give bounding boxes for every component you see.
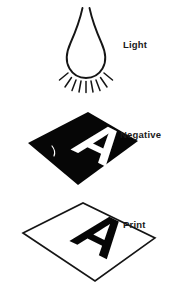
light-ray [91,81,93,92]
light-ray [104,73,113,80]
negative-label: Negative [120,129,161,140]
light-ray [101,78,108,88]
light-ray [96,80,100,91]
light-ray [72,80,76,91]
light-stage-group: Light [60,8,148,93]
light-label: Light [123,39,148,50]
print-stage-group: A Print [23,199,155,281]
light-bulb-icon [67,8,105,78]
photographic-process-diagram: Light A Negative A Print [0,0,170,282]
negative-stage-group: A Negative [28,111,161,185]
light-ray [65,78,72,88]
light-ray [79,81,81,92]
light-ray [60,73,69,80]
diagram-canvas: Light A Negative A Print [0,0,170,282]
print-label: Print [123,219,146,230]
bulb-outline-path [67,8,105,78]
light-rays-group [60,73,113,93]
